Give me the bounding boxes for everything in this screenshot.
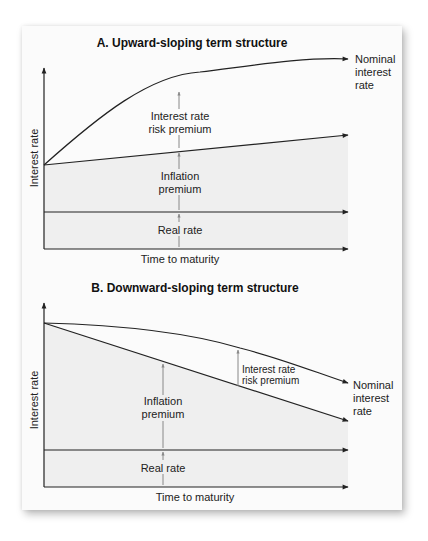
panel-b-nominal-label-3: rate xyxy=(353,405,372,417)
panel-b-risk-premium-label-2: risk premium xyxy=(242,375,299,386)
panel-a-y-axis-label: Interest rate xyxy=(28,129,40,188)
panel-a-nominal-label-1: Nominal xyxy=(355,53,395,65)
panel-b-y-axis-label: Interest rate xyxy=(28,371,40,430)
term-structure-diagram: A. Upward-sloping term structure Interes… xyxy=(0,0,428,541)
panel-a-real-rate-label: Real rate xyxy=(158,224,203,236)
panel-b-risk-premium-label-1: Interest rate xyxy=(242,364,296,375)
panel-b: B. Downward-sloping term structure Infla… xyxy=(28,281,393,503)
panel-b-title: B. Downward-sloping term structure xyxy=(91,281,299,295)
panel-b-nominal-label-2: interest xyxy=(353,392,389,404)
panel-a-risk-premium-label-1: Interest rate xyxy=(151,110,210,122)
panel-b-shaded-area xyxy=(44,323,348,487)
panel-a-nominal-label-2: interest xyxy=(355,66,391,78)
panel-a-inflation-label-2: premium xyxy=(159,183,202,195)
panel-a-inflation-label-1: Inflation xyxy=(161,170,200,182)
panel-b-inflation-label-1: Inflation xyxy=(144,395,183,407)
panel-b-x-axis-label: Time to maturity xyxy=(156,491,235,503)
panel-a-nominal-label-3: rate xyxy=(355,79,374,91)
panel-b-inflation-label-2: premium xyxy=(142,408,185,420)
panel-a: A. Upward-sloping term structure Interes… xyxy=(28,36,395,265)
panel-a-risk-premium-label-2: risk premium xyxy=(149,123,212,135)
panel-a-x-axis-label: Time to maturity xyxy=(141,253,220,265)
panel-a-title: A. Upward-sloping term structure xyxy=(97,36,288,50)
panel-b-nominal-label-1: Nominal xyxy=(353,379,393,391)
panel-b-real-rate-label: Real rate xyxy=(141,462,186,474)
